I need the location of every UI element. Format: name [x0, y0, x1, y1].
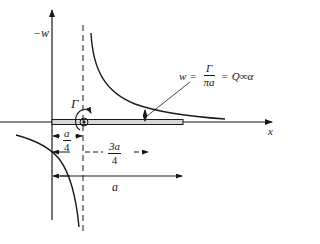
x-axis-label: x	[268, 126, 273, 137]
flat-plate	[52, 120, 183, 125]
formula-equals-2: =	[222, 70, 228, 82]
formula-rhs: Q∞α	[232, 70, 254, 82]
vortex-strength-label: Γ	[71, 97, 78, 110]
vertical-axis-label: −w	[33, 27, 49, 39]
quarter-chord-label: a 4	[63, 128, 71, 153]
formula-equals-1: =	[190, 70, 196, 82]
quarter-chord-num: a	[63, 128, 71, 139]
three-quarter-chord-num: 3a	[108, 141, 121, 152]
induced-velocity-formula: w = Γ πa = Q∞α	[179, 63, 253, 88]
formula-lhs: w	[179, 70, 186, 82]
formula-numerator: Γ	[206, 63, 212, 74]
chord-label: a	[112, 181, 118, 193]
formula-denominator: πa	[204, 77, 215, 88]
three-quarter-chord-den: 4	[112, 155, 118, 166]
quarter-chord-den: 4	[64, 142, 70, 153]
three-quarter-chord-label: 3a 4	[108, 141, 121, 166]
formula-fraction: Γ πa	[204, 63, 215, 88]
